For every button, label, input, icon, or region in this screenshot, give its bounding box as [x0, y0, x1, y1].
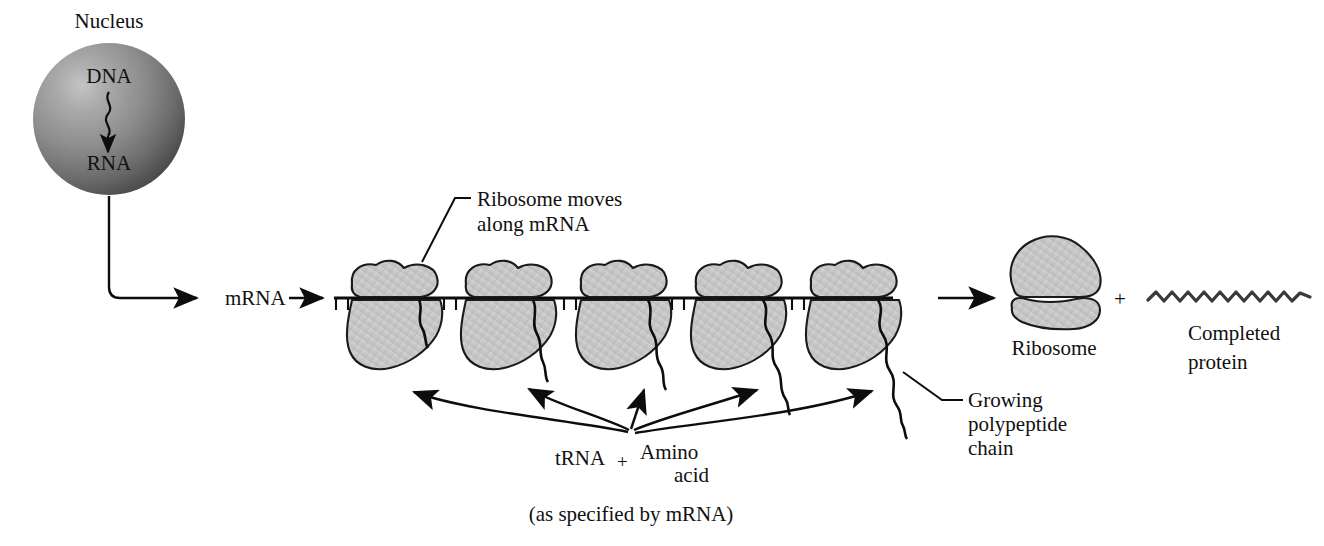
completed-protein-label-line2: protein [1188, 350, 1248, 374]
ribosome-moves-label-line2: along mRNA [477, 212, 590, 236]
trna-plus-sign: + [617, 451, 628, 472]
free-ribosome-label: Ribosome [1011, 336, 1096, 360]
translation-diagram: Nucleus DNA RNA mRNA [0, 0, 1324, 546]
trna-label: tRNA [555, 446, 606, 470]
mrna-label: mRNA [225, 286, 287, 310]
ribosome-moves-label-line1: Ribosome moves [477, 187, 622, 211]
ribosome-moves-leader-line [422, 198, 471, 262]
ribosome-small-subunit [811, 261, 897, 297]
ribosome-small-subunit [466, 261, 552, 297]
nucleus-to-mrna-arrow [109, 196, 197, 298]
dna-label: DNA [86, 64, 132, 88]
acid-label: acid [674, 463, 709, 487]
ribosome-on-mrna-4 [691, 261, 790, 415]
completed-protein-label-line1: Completed [1188, 321, 1281, 345]
growing-chain-label-line2: polypeptide [968, 412, 1067, 436]
ribosome-on-mrna-1 [347, 261, 442, 369]
ribosome-on-mrna-2 [461, 261, 556, 382]
trna-arrows-group [414, 389, 872, 433]
growing-chain-label-line3: chain [968, 436, 1014, 460]
ribosome-on-mrna-5 [806, 261, 907, 439]
ribosome-small-subunit [696, 261, 782, 297]
growing-chain-leader-line [903, 372, 963, 400]
ribosome-small-subunit [581, 261, 667, 297]
free-ribosome-small-subunit [1012, 298, 1100, 329]
ribosome-small-subunit [352, 261, 438, 297]
rna-label: RNA [87, 151, 132, 175]
trna-arrow-1 [414, 392, 628, 432]
trna-arrow-5 [635, 391, 872, 433]
amino-label: Amino [640, 440, 698, 464]
diagram-canvas: Nucleus DNA RNA mRNA [0, 0, 1324, 546]
as-specified-label: (as specified by mRNA) [529, 502, 734, 526]
products-plus-sign: + [1114, 287, 1126, 311]
ribosome-large-subunit [347, 300, 442, 369]
free-ribosome-large-subunit [1011, 236, 1101, 297]
growing-chain-label-line1: Growing [968, 388, 1043, 412]
nucleus-label: Nucleus [75, 9, 144, 33]
trna-arrow-3 [631, 390, 644, 429]
completed-protein-strand [1148, 292, 1310, 301]
free-ribosome-group [1011, 236, 1101, 329]
ribosome-on-mrna-3 [576, 261, 671, 390]
